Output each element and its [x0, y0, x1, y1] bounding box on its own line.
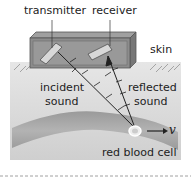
red-blood-cell: [129, 126, 141, 136]
velocity-label: v: [169, 124, 176, 136]
reflected-sound-label-line2: sound: [134, 96, 167, 108]
receiver-label: receiver: [92, 5, 137, 17]
red-blood-cell-label: red blood cell: [102, 147, 176, 159]
skin-label: skin: [150, 44, 172, 56]
reflected-sound-label-line1: reflected: [128, 82, 177, 94]
transmitter-label: transmitter: [24, 5, 86, 17]
incident-sound-label-line2: sound: [45, 96, 78, 108]
incident-sound-label-line1: incident: [40, 82, 84, 94]
